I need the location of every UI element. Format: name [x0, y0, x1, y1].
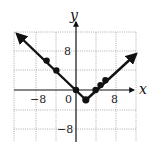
x-axis-label: x — [139, 81, 147, 97]
point-4-0 — [92, 87, 98, 93]
point-6-2 — [102, 77, 108, 83]
x-tick-8: 8 — [111, 93, 118, 106]
point-2-neg2 — [82, 96, 89, 103]
tick-origin: 0 — [65, 93, 72, 106]
point-0-0 — [73, 87, 79, 93]
chart-plot: x y −8 0 8 8 −8 — [0, 0, 152, 142]
y-tick-neg8: −8 — [57, 123, 73, 136]
point-5-1 — [97, 82, 103, 88]
x-tick-neg8: −8 — [30, 93, 46, 106]
y-tick-8: 8 — [64, 45, 71, 58]
point-neg4-4 — [53, 67, 59, 73]
point-neg6-6 — [43, 57, 49, 63]
y-axis-label: y — [69, 7, 79, 23]
